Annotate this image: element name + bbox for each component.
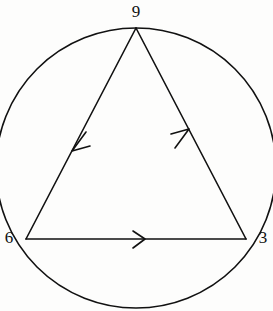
vertex-label-lower-left: 6 xyxy=(5,228,14,247)
diagram-svg: 9 6 3 xyxy=(0,0,273,311)
triangle-edge-9-to-6 xyxy=(26,28,136,239)
diagram-canvas: 9 6 3 xyxy=(0,0,273,311)
vertex-label-top: 9 xyxy=(132,2,141,21)
vertex-label-lower-right: 3 xyxy=(259,228,268,247)
circumscribed-circle xyxy=(0,28,273,308)
direction-arrow-icon-3-to-9 xyxy=(171,129,189,148)
triangle-edge-3-to-9 xyxy=(136,28,246,239)
